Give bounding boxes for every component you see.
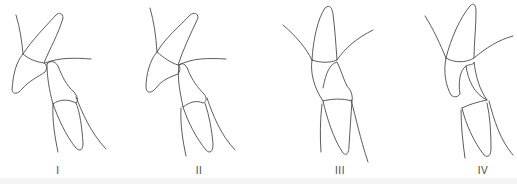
panel-4-drawing [425,4,513,158]
panel-1-label: I [56,165,59,176]
panel-2-drawing [146,8,235,156]
line-drawing-figure: I II III IV [0,0,517,184]
panel-2-label: II [196,165,203,176]
panel-1-drawing [12,13,106,152]
bottom-margin [0,178,517,184]
panel-4-label: IV [478,165,488,176]
panel-3-label: III [335,165,345,176]
figure-drawing [0,0,517,184]
panel-3-drawing [283,6,373,162]
